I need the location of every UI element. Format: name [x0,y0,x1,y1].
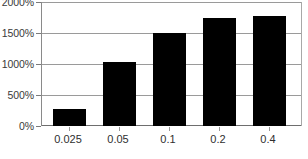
y-axis-labels: 2000% 1500% 1000% 500% 0% [0,0,36,159]
x-axis-tick-mark [269,127,270,131]
x-axis-tick-label: 0.025 [43,132,93,146]
x-axis-tick-mark [169,127,170,131]
x-axis-tick-label: 0.4 [243,132,293,146]
y-axis-tick-label: 0% [0,121,34,132]
bar-2 [153,33,186,126]
y-axis-tick-label: 500% [0,90,34,101]
x-axis-tick-label: 0.1 [143,132,193,146]
x-axis-tick-label: 0.2 [193,132,243,146]
x-axis-labels: 0.025 0.05 0.1 0.2 0.4 [41,132,300,152]
bar-4 [253,16,286,126]
bar-1 [103,62,136,126]
y-axis-tick-label: 1000% [0,59,34,70]
bar-3 [203,18,236,127]
y-axis-tick-mark [36,126,41,127]
y-axis-tick-label: 1500% [0,28,34,39]
x-axis-tick-mark [69,127,70,131]
plot-area [41,2,302,126]
bar-chart: 2000% 1500% 1000% 500% 0% 0.025 0.05 0.1 [0,0,308,159]
x-axis-tick-label: 0.05 [93,132,143,146]
bar-0 [53,109,86,126]
x-axis-tick-mark [219,127,220,131]
x-axis-tick-mark [119,127,120,131]
bar-series [42,2,301,126]
y-axis-tick-label: 2000% [0,0,34,8]
